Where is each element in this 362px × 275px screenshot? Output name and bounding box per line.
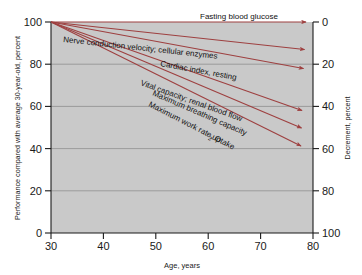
series-label-fasting-blood-glucose: Fasting blood glucose [200, 12, 278, 21]
ytick-label-right-40: 40 [322, 100, 334, 112]
x-axis-ticks [51, 233, 313, 239]
xtick-label-80: 80 [307, 240, 319, 252]
ytick-label-right-60: 60 [322, 143, 334, 155]
xtick-label-30: 30 [45, 240, 57, 252]
xtick-label-60: 60 [202, 240, 214, 252]
xtick-label-70: 70 [254, 240, 266, 252]
ytick-label-left-80: 80 [30, 58, 42, 70]
aging-performance-line-chart: 100 80 60 40 20 0 0 20 40 60 80 100 [0, 0, 362, 275]
y-axis-left-ticks [45, 22, 51, 233]
xtick-label-50: 50 [150, 240, 162, 252]
ytick-label-right-100: 100 [322, 227, 340, 239]
y-axis-right-title: Decrement, percent [343, 96, 352, 159]
y-axis-left-title: Performance compared with average 30-yea… [13, 36, 22, 220]
y-axis-right-ticks [313, 22, 319, 233]
ytick-label-right-0: 0 [322, 16, 328, 28]
ytick-label-right-20: 20 [322, 58, 334, 70]
ytick-label-right-80: 80 [322, 185, 334, 197]
chart-figure: 100 80 60 40 20 0 0 20 40 60 80 100 [0, 0, 362, 275]
ytick-label-left-60: 60 [30, 100, 42, 112]
xtick-label-40: 40 [97, 240, 109, 252]
x-axis-title: Age, years [164, 261, 200, 270]
ytick-label-left-20: 20 [30, 185, 42, 197]
ytick-label-left-100: 100 [24, 16, 42, 28]
ytick-label-left-0: 0 [36, 227, 42, 239]
ytick-label-left-40: 40 [30, 143, 42, 155]
